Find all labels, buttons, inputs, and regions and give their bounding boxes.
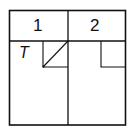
column-1-label: 1: [33, 17, 42, 34]
left-diagonal: [43, 41, 68, 67]
column-2-label: 2: [90, 17, 99, 34]
right-inner-box: [101, 41, 126, 67]
left-corner-dot: [43, 66, 45, 68]
table-diagram: 1 2 T: [0, 0, 130, 132]
cell-t-label: T: [19, 45, 29, 61]
diagram-lines: [0, 0, 130, 132]
